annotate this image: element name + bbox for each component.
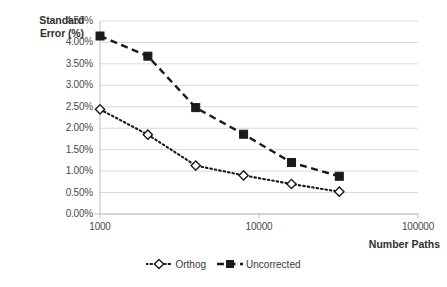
data-point-marker: [191, 161, 200, 170]
data-point-marker: [240, 130, 248, 138]
data-point-marker: [192, 104, 200, 112]
legend-item-uncorrected[interactable]: Uncorrected: [217, 258, 300, 270]
data-point-marker: [287, 159, 295, 167]
data-series-layer: [95, 32, 344, 196]
data-point-marker: [144, 52, 152, 60]
series-line: [100, 36, 339, 176]
legend-item-orthog[interactable]: Orthog: [146, 258, 206, 270]
data-point-marker: [96, 32, 104, 40]
series-uncorrected: [96, 32, 343, 180]
data-point-marker: [95, 105, 104, 114]
axis-lines: [94, 21, 418, 218]
chart-container: Standard Error (%) 0.00%0.50%1.00%1.50%2…: [0, 0, 447, 287]
legend-diamond-marker-icon: [146, 258, 172, 270]
data-point-marker: [335, 187, 344, 196]
series-orthog: [95, 105, 344, 197]
legend-item-label: Orthog: [175, 259, 206, 270]
gridlines: [100, 21, 418, 214]
legend-square-marker-icon: [217, 258, 243, 270]
x-axis-title: Number Paths: [300, 238, 440, 250]
data-point-marker: [287, 179, 296, 188]
legend-item-label: Uncorrected: [246, 259, 300, 270]
chart-legend: OrthogUncorrected: [0, 258, 447, 270]
data-point-marker: [335, 172, 343, 180]
data-point-marker: [239, 171, 248, 180]
